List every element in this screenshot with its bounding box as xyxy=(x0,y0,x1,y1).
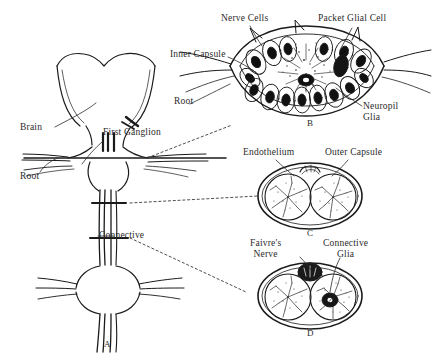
label-faivres-nerve: Faivre's Nerve xyxy=(250,238,281,259)
label-packet-glial-cell: Packet Glial Cell xyxy=(318,13,386,24)
label-neuropil-glia-line2: Glia xyxy=(363,112,380,122)
label-pointers xyxy=(40,26,362,292)
label-root-left: Root xyxy=(20,171,39,182)
panel-c-artwork xyxy=(258,163,362,229)
label-neuropil-glia-line1: Neuropil xyxy=(363,101,398,111)
label-outer-capsule: Outer Capsule xyxy=(325,147,382,158)
panel-id-b: B xyxy=(307,118,313,128)
label-faivres-nerve-line2: Nerve xyxy=(254,249,278,259)
label-brain: Brain xyxy=(20,122,42,133)
label-endothelium: Endothelium xyxy=(243,147,294,158)
panel-id-d: D xyxy=(307,328,314,338)
label-faivres-nerve-line1: Faivre's xyxy=(250,238,281,248)
label-connective-glia: Connective Glia xyxy=(323,238,368,259)
label-connective-glia-line2: Glia xyxy=(337,249,354,259)
label-root-right: Root xyxy=(174,96,193,107)
label-first-ganglion: First Ganglion xyxy=(103,127,161,138)
leader-lines xyxy=(130,125,258,292)
panel-id-a: A xyxy=(104,339,111,349)
label-connective-glia-line1: Connective xyxy=(323,238,368,248)
figure-canvas: Brain First Ganglion Root Connective Ner… xyxy=(0,0,432,362)
panel-id-c: C xyxy=(307,228,313,238)
label-nerve-cells: Nerve Cells xyxy=(221,13,268,24)
label-connective: Connective xyxy=(99,230,144,241)
panel-d-artwork xyxy=(258,263,362,329)
label-neuropil-glia: Neuropil Glia xyxy=(363,101,398,122)
label-inner-capsule: Inner Capsule xyxy=(170,49,226,60)
panel-a-artwork xyxy=(22,54,226,353)
